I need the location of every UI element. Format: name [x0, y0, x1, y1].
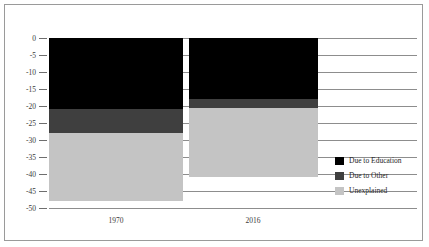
xtick-label-2016: 2016 [246, 216, 261, 225]
legend-item-other[interactable]: Due to Other [335, 172, 402, 180]
ytick-label-6: -30 [26, 136, 36, 145]
ytick-label-10: -50 [26, 204, 36, 213]
ytick-10 [39, 208, 47, 209]
bar-segment-1970-unexplained[interactable] [49, 133, 183, 201]
legend-item-unexplained[interactable]: Unexplained [335, 187, 402, 195]
ytick-label-8: -40 [26, 170, 36, 179]
legend-label-unexplained: Unexplained [349, 187, 387, 195]
bar-segment-2016-education[interactable] [189, 38, 318, 99]
legend-label-education: Due to Education [349, 157, 402, 165]
legend-swatch-education-icon [335, 157, 344, 165]
ytick-6 [39, 140, 47, 141]
ytick-label-9: -45 [26, 187, 36, 196]
ytick-label-0: 0 [32, 34, 36, 43]
ytick-1 [39, 55, 47, 56]
xtick-label-1970: 1970 [109, 216, 124, 225]
gridline-10 [49, 208, 417, 209]
ytick-8 [39, 174, 47, 175]
ytick-2 [39, 72, 47, 73]
ytick-label-2: -10 [26, 68, 36, 77]
bar-segment-2016-other[interactable] [189, 99, 318, 108]
ytick-7 [39, 157, 47, 158]
ytick-label-5: -25 [26, 119, 36, 128]
chart-frame: 0 -5 -10 -15 -20 -25 -30 -35 -40 -45 -50 [4, 4, 423, 241]
chart-legend: Due to Education Due to Other Unexplaine… [335, 157, 402, 202]
bar-2016[interactable] [189, 38, 318, 177]
ytick-0 [39, 38, 47, 39]
bar-segment-1970-other[interactable] [49, 109, 183, 133]
ytick-4 [39, 106, 47, 107]
ytick-label-4: -20 [26, 102, 36, 111]
bar-segment-2016-unexplained[interactable] [189, 108, 318, 178]
legend-swatch-other-icon [335, 172, 344, 180]
ytick-label-3: -15 [26, 85, 36, 94]
ytick-label-7: -35 [26, 153, 36, 162]
ytick-9 [39, 191, 47, 192]
legend-item-education[interactable]: Due to Education [335, 157, 402, 165]
ytick-label-1: -5 [30, 51, 36, 60]
bar-segment-1970-education[interactable] [49, 38, 183, 109]
legend-swatch-unexplained-icon [335, 187, 344, 195]
ytick-5 [39, 123, 47, 124]
legend-label-other: Due to Other [349, 172, 388, 180]
ytick-3 [39, 89, 47, 90]
bar-1970[interactable] [49, 38, 183, 201]
